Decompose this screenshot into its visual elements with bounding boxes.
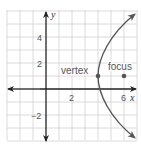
y-tick-label-2: 2 — [37, 59, 42, 69]
coordinate-plane: y x 4 2 −2 2 6 vertex focus — [0, 0, 141, 153]
vertex-label: vertex — [61, 65, 88, 76]
parabola-lower-branch — [98, 76, 135, 138]
y-axis-label: y — [50, 9, 56, 20]
x-tick-label-2: 2 — [69, 93, 74, 103]
y-tick-label-4: 4 — [37, 33, 42, 43]
x-axis-label: x — [129, 92, 135, 103]
y-tick-label-neg2: −2 — [31, 111, 41, 121]
x-tick-label-6: 6 — [121, 93, 126, 103]
focus-point — [122, 74, 127, 79]
focus-label: focus — [108, 61, 132, 72]
vertex-point — [96, 74, 101, 79]
